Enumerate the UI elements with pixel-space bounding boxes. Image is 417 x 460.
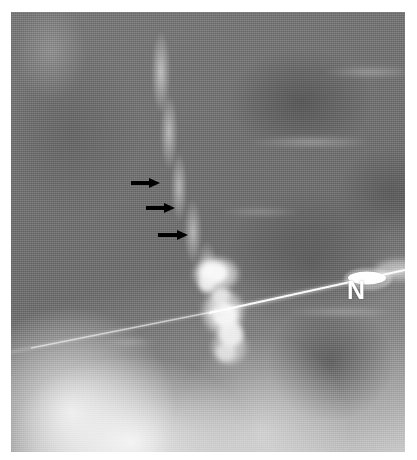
radiograph-image xyxy=(11,12,405,452)
arrow-shaft xyxy=(146,206,166,210)
annotation-arrow-1 xyxy=(131,178,160,188)
arrow-head xyxy=(177,230,188,240)
arrow-head xyxy=(164,203,175,213)
radiograph-figure: N xyxy=(0,0,417,460)
annotation-arrow-3 xyxy=(158,230,188,240)
film-grain-layer xyxy=(11,12,405,452)
needle-letter-label: N xyxy=(347,278,365,303)
arrow-shaft xyxy=(131,181,151,185)
annotation-arrow-2 xyxy=(146,203,175,213)
arrow-head xyxy=(149,178,160,188)
arrow-shaft xyxy=(158,233,179,237)
